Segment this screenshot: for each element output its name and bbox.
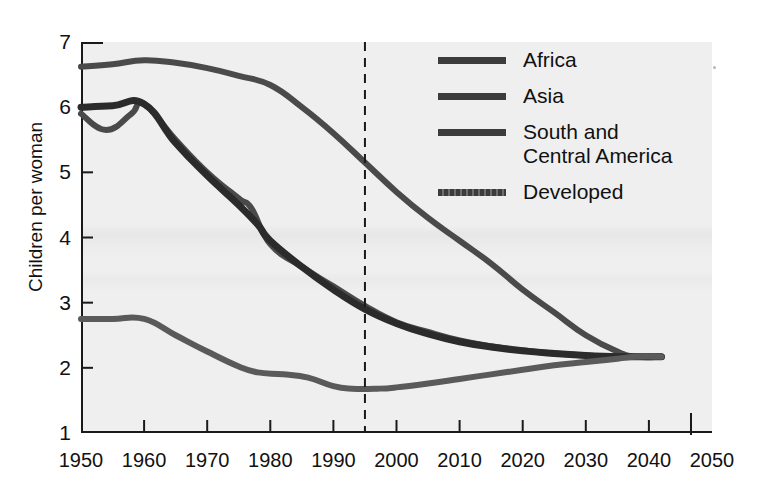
x-tick-label: 1970 [172, 450, 242, 470]
x-tick-label: 1960 [109, 450, 179, 470]
legend-item-south-and-central-america: South and Central America [438, 120, 738, 170]
x-tick-label: 1980 [235, 450, 305, 470]
legend-label-south-and-central-america: South and Central America [523, 120, 672, 170]
legend-label-africa: Africa [523, 48, 577, 73]
y-axis-title: Children per woman [25, 107, 47, 307]
scan-speck [713, 66, 716, 69]
legend-swatch-africa [438, 57, 506, 64]
legend-label-asia: Asia [523, 84, 564, 109]
y-tick-label: 2 [37, 357, 71, 378]
legend-swatch-south-and-central-america [438, 129, 506, 136]
legend-swatch-developed [438, 189, 506, 196]
legend-item-africa: Africa [438, 48, 738, 73]
y-tick-marks [81, 107, 93, 368]
x-tick-marks [144, 420, 649, 433]
x-tick-label: 2050 [677, 450, 747, 470]
x-tick-label: 1990 [298, 450, 368, 470]
x-tick-label: 2000 [362, 450, 432, 470]
x-tick-label: 2010 [425, 450, 495, 470]
legend-swatch-asia [438, 93, 506, 100]
x-tick-label: 2040 [614, 450, 684, 470]
chart-screenshot: 1234567 19501960197019801990200020102020… [0, 0, 765, 497]
legend-item-developed: Developed [438, 180, 738, 205]
x-tick-label: 2020 [488, 450, 558, 470]
x-tick-label: 1950 [46, 450, 116, 470]
legend-item-asia: Asia [438, 84, 738, 109]
x-tick-label: 2030 [551, 450, 621, 470]
y-tick-label: 7 [37, 31, 71, 52]
y-tick-label: 1 [37, 422, 71, 443]
legend-label-developed: Developed [523, 180, 623, 205]
chart-legend: Africa Asia South and Central America De… [438, 48, 738, 216]
